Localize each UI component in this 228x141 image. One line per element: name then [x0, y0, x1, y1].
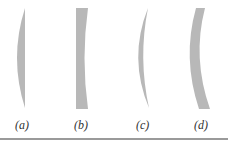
lens-d-diverging-meniscus	[190, 8, 210, 109]
lens-b-plano-concave	[76, 8, 88, 109]
lens-a-plano-convex	[17, 8, 25, 108]
bottom-rule	[0, 138, 228, 140]
lens-c-converging-meniscus	[138, 8, 149, 108]
label-a: (a)	[15, 118, 29, 132]
label-b: (b)	[74, 118, 88, 132]
label-c: (c)	[136, 118, 149, 132]
label-d: (d)	[194, 118, 208, 132]
